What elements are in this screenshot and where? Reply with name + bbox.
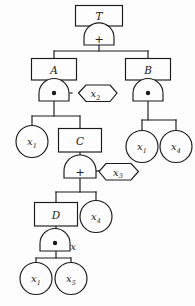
and-dot-icon	[146, 91, 150, 95]
node-box-a-label: A	[49, 64, 58, 76]
node-leaf-b-x1[interactable]: x1	[126, 131, 158, 163]
node-top-event-label: T	[95, 10, 103, 22]
gate-and-d-side-label: x	[71, 241, 77, 252]
gate-or-c-label: +	[75, 166, 84, 179]
diagram-canvas: T + A B x2	[0, 0, 195, 306]
gate-top-or-label: +	[94, 33, 103, 46]
gate-and-a[interactable]	[39, 79, 69, 102]
node-cond-x2[interactable]: x2	[79, 85, 118, 102]
node-box-d-label: D	[51, 209, 61, 221]
node-leaf-c-x4[interactable]: x4	[80, 201, 112, 233]
node-box-c[interactable]: C	[59, 129, 102, 153]
fault-tree-svg: T + A B x2	[0, 0, 195, 306]
node-box-b-label: B	[143, 64, 152, 76]
gate-and-b[interactable]	[133, 79, 163, 102]
node-leaf-b-x4[interactable]: x4	[160, 131, 192, 163]
node-box-a[interactable]: A	[32, 59, 77, 81]
node-box-b[interactable]: B	[126, 59, 171, 81]
node-box-d[interactable]: D	[35, 203, 78, 227]
and-dot-icon	[52, 91, 56, 95]
node-leaf-d-x5[interactable]: x5	[55, 263, 87, 295]
node-box-c-label: C	[76, 135, 84, 147]
node-cond-x3[interactable]: x3	[99, 164, 139, 181]
and-dot-icon	[53, 241, 57, 245]
node-leaf-a-x1[interactable]: x1	[16, 126, 48, 158]
gate-and-d[interactable]	[40, 229, 70, 252]
gate-or-c[interactable]: +	[64, 155, 96, 179]
node-leaf-d-x1[interactable]: x1	[20, 263, 52, 295]
